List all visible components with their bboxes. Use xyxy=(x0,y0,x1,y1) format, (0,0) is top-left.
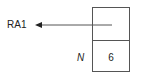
field-value: 6 xyxy=(92,52,130,63)
field-label-n: N xyxy=(77,52,84,63)
cell-divider xyxy=(92,40,130,41)
